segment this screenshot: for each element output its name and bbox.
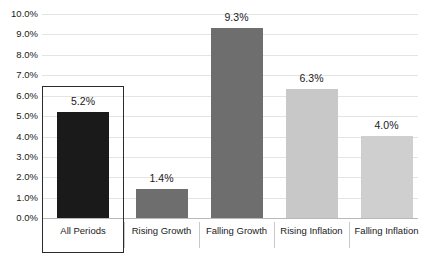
bar-rising-inflation[interactable] (286, 89, 338, 218)
y-axis-tick-label: 10.0% (0, 9, 38, 19)
bar-group-all-periods[interactable]: 5.2% All Periods (42, 4, 124, 218)
bar-all-periods[interactable] (57, 112, 109, 218)
bar-data-label: 5.2% (71, 96, 95, 107)
x-axis-category-label: All Periods (60, 226, 105, 236)
x-axis-category-label: Falling Growth (206, 226, 267, 236)
category-separator (274, 222, 275, 248)
category-separator (349, 222, 350, 248)
bar-data-label: 4.0% (375, 120, 399, 131)
bar-data-label: 6.3% (300, 73, 324, 84)
bar-group-rising-inflation[interactable]: 6.3% Rising Inflation (274, 4, 349, 218)
axis-baseline (42, 218, 418, 219)
bar-group-rising-growth[interactable]: 1.4% Rising Growth (124, 4, 199, 218)
bar-data-label: 9.3% (225, 12, 249, 23)
bar-falling-growth[interactable] (211, 28, 263, 218)
y-axis-tick-label: 0.0% (0, 213, 38, 223)
x-axis-category-label: Rising Growth (132, 226, 192, 236)
x-axis-category-label: Falling Inflation (355, 226, 419, 236)
y-axis-tick-label: 7.0% (0, 70, 38, 80)
y-axis-tick-label: 4.0% (0, 132, 38, 142)
y-axis-tick-label: 6.0% (0, 91, 38, 101)
y-axis-tick-label: 1.0% (0, 193, 38, 203)
category-separator (199, 222, 200, 248)
bar-data-label: 1.4% (150, 173, 174, 184)
y-axis-tick-label: 3.0% (0, 152, 38, 162)
bar-falling-inflation[interactable] (361, 136, 413, 218)
plot-area: 5.2% All Periods 1.4% Rising Growth 9.3%… (42, 4, 418, 218)
bar-chart-screenshot: 10.0% 9.0% 8.0% 7.0% 6.0% 5.0% 4.0% 3.0%… (0, 0, 423, 260)
x-axis-category-label: Rising Inflation (280, 226, 342, 236)
y-axis-tick-label: 8.0% (0, 50, 38, 60)
bar-rising-growth[interactable] (136, 189, 188, 218)
bar-group-falling-inflation[interactable]: 4.0% Falling Inflation (349, 4, 423, 218)
y-axis-tick-label: 2.0% (0, 172, 38, 182)
bar-group-falling-growth[interactable]: 9.3% Falling Growth (199, 4, 274, 218)
category-separator (124, 222, 125, 248)
y-axis-tick-label: 9.0% (0, 29, 38, 39)
y-axis-tick-label: 5.0% (0, 111, 38, 121)
